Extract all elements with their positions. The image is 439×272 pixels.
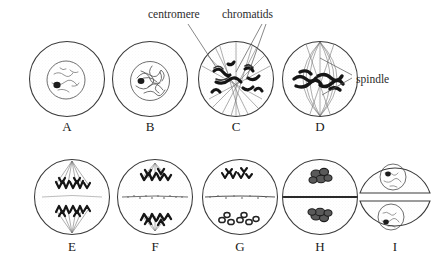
cell-f-letter: F	[151, 239, 158, 254]
cell-a-letter: A	[62, 119, 72, 134]
cell-i-nucleolus-lower	[383, 220, 389, 225]
centromere-label: centromere	[148, 8, 200, 20]
cell-a-cytoplasm-stipple	[30, 42, 105, 117]
cell-i-letter: I	[393, 239, 397, 254]
cell-i-nucleolus-upper	[385, 172, 391, 177]
cell-d-letter: D	[315, 119, 324, 134]
cell-b-letter: B	[146, 119, 155, 134]
cell-g-letter: G	[235, 239, 244, 254]
chromatids-label: chromatids	[222, 8, 274, 20]
spindle-label: spindle	[356, 73, 389, 86]
cell-c-letter: C	[232, 119, 241, 134]
cell-e-letter: E	[68, 239, 76, 254]
cell-a-nucleolus	[53, 82, 60, 88]
cell-h-chromatin-upper	[309, 168, 332, 183]
mitosis-figure-canvas: A B	[0, 0, 439, 272]
mitosis-diagram: A B	[0, 0, 439, 272]
cell-b-nucleolus	[138, 78, 145, 84]
cell-h-letter: H	[315, 239, 324, 254]
